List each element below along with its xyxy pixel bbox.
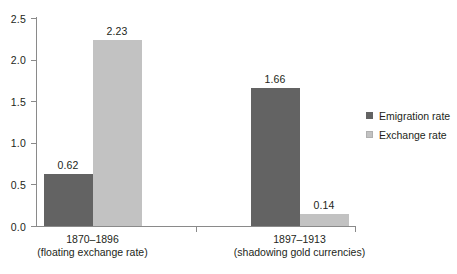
x-axis-tick xyxy=(196,227,197,232)
bar-value-label: 0.62 xyxy=(57,159,78,171)
y-axis-tick: 0.0 xyxy=(31,226,37,227)
x-axis-category-label: 1870–1896(floating exchange rate) xyxy=(0,233,203,259)
legend-item-label: Emigration rate xyxy=(379,110,450,122)
bar-value-label: 2.23 xyxy=(106,25,127,37)
legend-item-emigration-rate[interactable]: Emigration rate xyxy=(366,106,450,125)
chart-legend: Emigration rate Exchange rate xyxy=(366,106,450,144)
legend-item-exchange-rate[interactable]: Exchange rate xyxy=(366,125,450,144)
bar-exchange-rate-group-1[interactable]: 2.23 xyxy=(93,40,142,226)
category-regime: (shadowing gold currencies) xyxy=(190,246,410,259)
bar-value-label: 1.66 xyxy=(264,73,285,85)
y-axis-tick-label: 0.0 xyxy=(11,221,26,233)
category-regime: (floating exchange rate) xyxy=(0,246,203,259)
bar-exchange-rate-group-2[interactable]: 0.14 xyxy=(300,214,349,226)
category-period: 1870–1896 xyxy=(66,233,119,245)
y-axis-tick-label: 2.0 xyxy=(11,54,26,66)
legend-swatch-icon xyxy=(366,131,373,138)
legend-swatch-icon xyxy=(366,112,373,119)
y-axis-tick-label: 2.5 xyxy=(11,13,26,25)
bar-value-label: 0.14 xyxy=(313,199,334,211)
chart-figure: 0.00.51.01.52.02.5 0.622.231.660.14 1870… xyxy=(0,0,457,274)
y-axis-tick-label: 0.5 xyxy=(11,179,26,191)
category-period: 1897–1913 xyxy=(273,233,326,245)
legend-item-label: Exchange rate xyxy=(379,129,447,141)
x-axis-tick xyxy=(355,227,356,232)
y-axis-tick-label: 1.5 xyxy=(11,96,26,108)
x-axis-category-label: 1897–1913(shadowing gold currencies) xyxy=(190,233,410,259)
bar-emigration-rate-group-1[interactable]: 0.62 xyxy=(44,174,93,226)
plot-area: 0.622.231.660.14 xyxy=(37,18,355,226)
bar-emigration-rate-group-2[interactable]: 1.66 xyxy=(251,88,300,226)
y-axis-tick-label: 1.0 xyxy=(11,137,26,149)
